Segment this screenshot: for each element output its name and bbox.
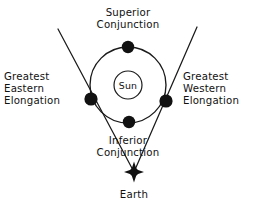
- label-greatest-eastern-line3: Elongation: [4, 95, 60, 106]
- label-greatest-eastern-line1: Greatest: [4, 71, 50, 82]
- label-greatest-western-line3: Elongation: [183, 95, 239, 106]
- sun-label: Sun: [119, 80, 137, 91]
- label-superior-conjunction-line1: Superior: [106, 7, 151, 18]
- earth-body: [124, 162, 144, 183]
- planet-greatest-western-elongation: [159, 94, 172, 107]
- diagram-canvas: Sun Superior Conjunction Greatest Easter…: [0, 0, 253, 212]
- label-greatest-western-line1: Greatest: [183, 71, 229, 82]
- planet-inferior-conjunction: [123, 116, 135, 128]
- label-earth: Earth: [120, 189, 148, 200]
- planet-greatest-eastern-elongation: [84, 92, 97, 105]
- planet-configuration-diagram: Sun Superior Conjunction Greatest Easter…: [0, 0, 253, 212]
- label-superior-conjunction-line2: Conjunction: [97, 19, 160, 30]
- label-inferior-conjunction-line2: Conjunction: [97, 147, 160, 158]
- label-greatest-western-line2: Western: [183, 83, 226, 94]
- label-inferior-conjunction-line1: Inferior: [109, 135, 148, 146]
- label-greatest-eastern-line2: Eastern: [4, 83, 44, 94]
- planet-superior-conjunction: [122, 41, 134, 53]
